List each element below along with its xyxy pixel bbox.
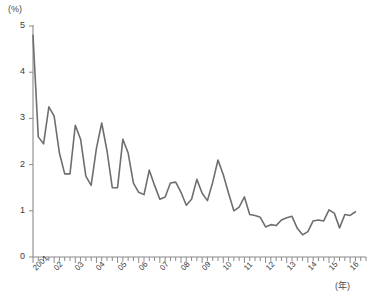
y-tick-label: 3 — [11, 112, 25, 122]
axes-group — [33, 25, 366, 257]
y-tick-label: 1 — [11, 205, 25, 215]
data-line — [33, 35, 355, 235]
chart-container: (%) (年) 012345 2001020304050607080910111… — [0, 0, 372, 299]
plot-area — [0, 0, 372, 299]
y-tick-label: 0 — [11, 251, 25, 261]
y-tick-label: 5 — [11, 20, 25, 30]
axis-ticks-group — [29, 26, 366, 263]
y-tick-label: 4 — [11, 66, 25, 76]
y-tick-label: 2 — [11, 159, 25, 169]
data-series-group — [33, 35, 355, 235]
